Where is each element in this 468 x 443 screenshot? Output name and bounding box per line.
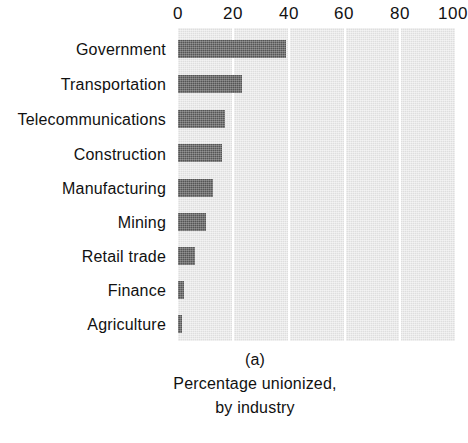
bar-construction (178, 144, 222, 162)
caption-line-1: Percentage unionized, (0, 372, 468, 396)
x-axis-tick-labels: 0 20 40 60 80 100 (0, 4, 468, 28)
category-label-transportation: Transportation (61, 76, 166, 94)
category-label-construction: Construction (74, 146, 166, 164)
bar-finance (178, 281, 184, 299)
plot-area (178, 28, 455, 341)
bar-transportation (178, 75, 242, 93)
bar-agriculture (178, 315, 182, 333)
figure-panel-a: 0 20 40 60 80 100 Government Transportat… (0, 0, 468, 443)
x-tick-80: 80 (390, 4, 410, 24)
x-tick-20: 20 (223, 4, 243, 24)
x-tick-0: 0 (173, 4, 183, 24)
caption-panel-id: (a) (0, 348, 468, 372)
category-label-telecommunications: Telecommunications (17, 111, 166, 129)
bar-telecommunications (178, 110, 225, 128)
x-tick-40: 40 (279, 4, 299, 24)
category-label-government: Government (76, 41, 166, 59)
x-tick-100: 100 (438, 4, 468, 24)
x-tick-60: 60 (334, 4, 354, 24)
figure-caption: (a) Percentage unionized, by industry (0, 348, 468, 420)
bar-mining (178, 213, 206, 231)
category-label-mining: Mining (118, 214, 166, 232)
category-label-finance: Finance (108, 282, 166, 300)
gridline-40 (288, 28, 290, 341)
category-label-retail-trade: Retail trade (82, 248, 166, 266)
gridline-60 (344, 28, 346, 341)
bar-government (178, 40, 286, 58)
bar-retail-trade (178, 247, 195, 265)
bar-manufacturing (178, 179, 213, 197)
category-label-agriculture: Agriculture (87, 316, 166, 334)
category-label-manufacturing: Manufacturing (62, 180, 166, 198)
category-axis-labels: Government Transportation Telecommunicat… (0, 28, 172, 341)
caption-line-2: by industry (0, 396, 468, 420)
gridline-80 (399, 28, 401, 341)
